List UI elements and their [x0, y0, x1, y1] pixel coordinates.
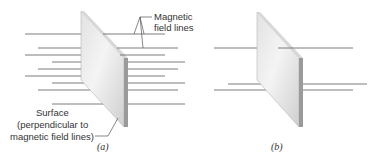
caption-a: (a): [97, 141, 109, 152]
surface-plate-edge-b: [299, 58, 303, 127]
surface-plate-a: [81, 11, 124, 127]
surface-plate-b: [257, 12, 299, 127]
field-lines-leader: [134, 17, 144, 34]
panel-b: [214, 12, 367, 127]
field-lines-label-line2: field lines: [154, 22, 194, 33]
surface-label-line1: Surface: [36, 107, 69, 118]
caption-b: (b): [271, 141, 283, 152]
surface-leader: [95, 118, 118, 136]
surface-plate-edge-a: [124, 58, 128, 127]
field-lines-label-line1: Magnetic: [154, 11, 193, 22]
surface-label-line2: (perpendicular to: [17, 119, 88, 130]
surface-label-line3: magnetic field lines): [10, 131, 94, 142]
